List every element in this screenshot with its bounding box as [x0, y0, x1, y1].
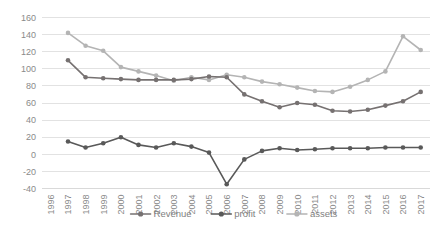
data-point-marker	[418, 145, 423, 150]
data-point-marker	[313, 147, 318, 152]
y-axis-tick-label: 120	[21, 47, 36, 57]
x-axis-tick-label: 2006	[222, 195, 232, 215]
data-point-marker	[401, 145, 406, 150]
data-point-marker	[348, 109, 353, 114]
data-point-marker	[189, 144, 194, 149]
data-point-marker	[418, 48, 423, 53]
data-point-marker	[418, 90, 423, 95]
legend-item-profit[interactable]: profit	[211, 208, 255, 219]
legend-label: profit	[234, 208, 255, 219]
data-point-marker	[242, 75, 247, 80]
x-axis-tick-label: 2013	[346, 195, 356, 215]
y-axis-tick-label: 140	[21, 30, 36, 40]
x-axis-tick-label: 2000	[116, 195, 126, 215]
data-point-marker	[66, 58, 71, 63]
data-point-marker	[366, 78, 371, 83]
x-axis-tick-label: 2017	[416, 195, 426, 215]
chart-legend: Revenueprofitassets	[131, 208, 338, 219]
data-point-marker	[101, 49, 106, 54]
data-point-marker	[383, 145, 388, 150]
data-point-marker	[313, 102, 318, 107]
data-point-marker	[366, 146, 371, 151]
data-point-marker	[401, 34, 406, 39]
data-point-marker	[207, 150, 212, 155]
data-point-marker	[383, 103, 388, 108]
data-point-marker	[330, 146, 335, 151]
data-point-marker	[224, 182, 229, 187]
data-point-marker	[330, 90, 335, 95]
data-point-marker	[242, 92, 247, 97]
data-point-marker	[277, 82, 282, 87]
data-point-marker	[101, 76, 106, 81]
data-point-marker	[260, 149, 265, 154]
data-point-marker	[348, 85, 353, 90]
data-point-marker	[119, 135, 124, 140]
data-point-marker	[83, 43, 88, 48]
data-point-marker	[172, 141, 177, 146]
data-point-marker	[295, 148, 300, 153]
y-axis-tick-label: 100	[21, 64, 36, 74]
data-point-marker	[154, 145, 159, 150]
data-point-marker	[154, 78, 159, 83]
data-point-marker	[83, 75, 88, 80]
y-axis-tick-label: 60	[26, 98, 36, 108]
data-point-marker	[242, 157, 247, 162]
x-axis-tick-label: 2016	[398, 195, 408, 215]
data-point-marker	[136, 69, 141, 74]
x-axis-tick-label: 2008	[257, 195, 267, 215]
data-point-marker	[154, 73, 159, 78]
legend-marker	[138, 211, 143, 216]
legend-marker	[294, 211, 299, 216]
x-axis-tick-label: 1998	[81, 195, 91, 215]
data-point-marker	[189, 77, 194, 82]
data-point-marker	[172, 78, 177, 83]
x-axis-tick-label: 2009	[275, 195, 285, 215]
data-point-marker	[277, 146, 282, 151]
data-point-marker	[401, 99, 406, 104]
data-point-marker	[277, 105, 282, 110]
data-point-marker	[313, 89, 318, 94]
data-point-marker	[224, 75, 229, 80]
data-point-marker	[295, 101, 300, 106]
x-axis-tick-label: 1996	[46, 195, 56, 215]
y-axis-tick-label: -20	[23, 167, 36, 177]
x-axis-tick-label: 1999	[99, 195, 109, 215]
legend-label: assets	[310, 208, 338, 219]
series-line	[68, 33, 421, 92]
x-axis-tick-label: 2015	[381, 195, 391, 215]
x-axis-tick-label: 2001	[134, 195, 144, 215]
chart-canvas: 160140120100806040200-20-40 199619971998…	[0, 0, 436, 234]
legend-label: Revenue	[154, 208, 192, 219]
series-profit	[66, 135, 423, 187]
data-point-marker	[136, 78, 141, 83]
data-point-marker	[207, 74, 212, 79]
y-axis-tick-label: 20	[26, 132, 36, 142]
data-point-marker	[295, 85, 300, 90]
legend-marker	[219, 211, 224, 216]
x-axis-tick-label: 2014	[363, 195, 373, 215]
x-axis-tick-label: 1997	[63, 195, 73, 215]
data-point-marker	[83, 145, 88, 150]
data-point-marker	[348, 146, 353, 151]
y-axis-tick-label: 80	[26, 81, 36, 91]
data-point-marker	[383, 69, 388, 74]
y-axis-tick-label: 0	[31, 150, 36, 160]
data-point-marker	[66, 139, 71, 144]
series-assets	[66, 31, 423, 95]
data-point-marker	[66, 31, 71, 36]
data-point-marker	[330, 108, 335, 113]
x-axis-tick-label: 2005	[204, 195, 214, 215]
data-point-marker	[260, 79, 265, 84]
data-point-marker	[260, 99, 265, 104]
data-point-marker	[366, 108, 371, 113]
data-point-marker	[119, 65, 124, 70]
y-axis-tick-label: -40	[23, 184, 36, 194]
data-point-marker	[136, 143, 141, 148]
y-axis-tick-labels: 160140120100806040200-20-40	[21, 13, 36, 194]
y-axis-tick-label: 160	[21, 13, 36, 23]
data-point-marker	[101, 141, 106, 146]
gridlines-group	[42, 18, 430, 189]
data-series-group	[66, 31, 423, 187]
data-point-marker	[119, 77, 124, 82]
line-chart: 160140120100806040200-20-40 199619971998…	[0, 0, 436, 234]
